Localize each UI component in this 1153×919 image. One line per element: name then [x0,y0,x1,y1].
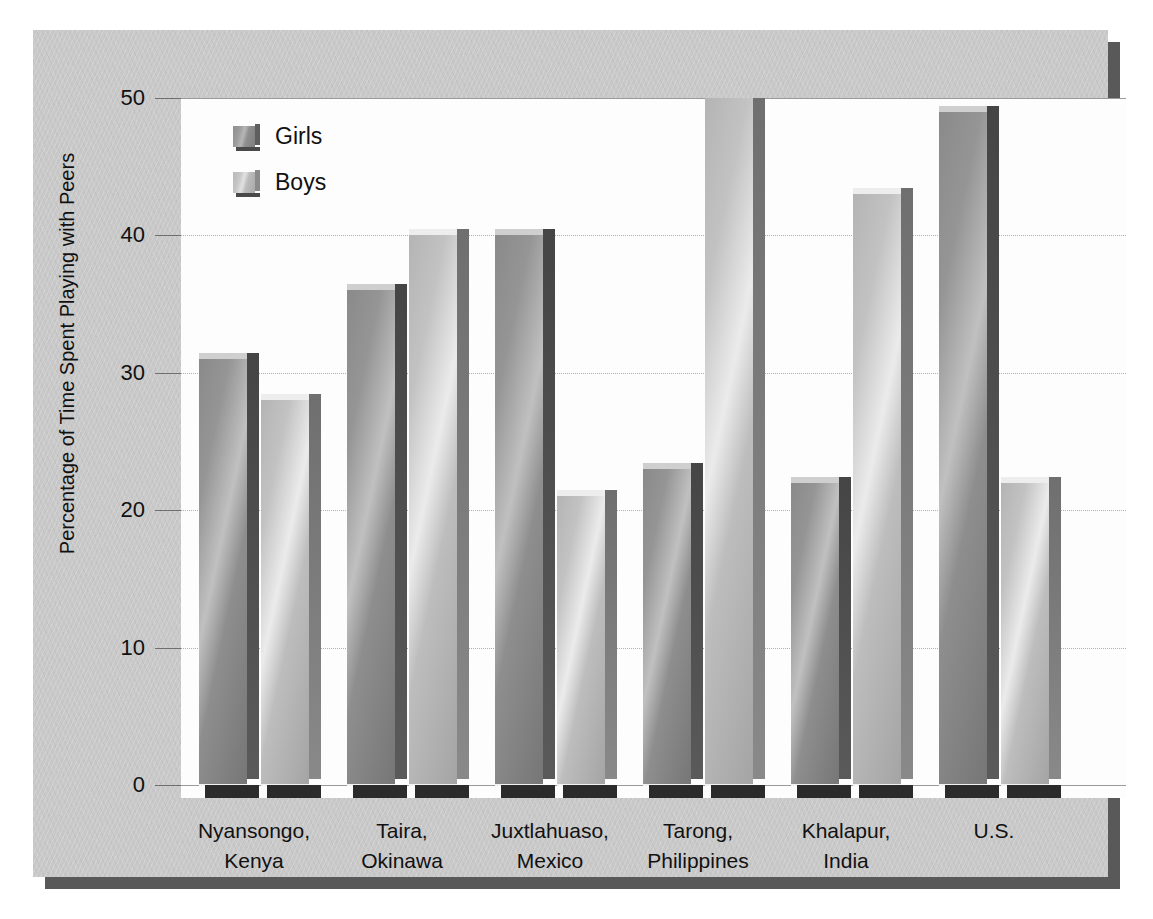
legend-label-boys: Boys [275,169,326,196]
bar-side-face [901,188,913,779]
bar-side-face [395,284,407,779]
bar-front-face [409,235,457,785]
x-axis-label-5: U.S. [904,816,1084,846]
bar-front-face [939,112,987,785]
y-tick-mark [155,373,181,374]
bar-side-face [987,106,999,779]
bar-girls-1 [347,290,407,785]
bar-girls-5 [939,112,999,785]
chart-figure: Percentage of Time Spent Playing with Pe… [0,0,1153,919]
bar-base-shadow [415,785,469,798]
bar-base-shadow [945,785,999,798]
bar-front-face [199,359,247,785]
bar-girls-2 [495,235,555,785]
bar-front-face [261,400,309,785]
y-tick-mark [155,98,181,99]
bar-boys-1 [409,235,469,785]
bar-side-face [691,463,703,779]
y-tick-label: 50 [89,87,145,109]
bar-side-face [247,353,259,779]
bar-base-shadow [797,785,851,798]
y-tick-label: 0 [89,774,145,796]
bar-front-face [1001,483,1049,785]
y-tick-label: 30 [89,362,145,384]
legend: Girls Boys [233,118,326,210]
bar-side-face [309,394,321,779]
bar-front-face [791,483,839,785]
legend-swatch-girls-icon [233,124,259,148]
bar-girls-3 [643,469,703,785]
y-axis-title: Percentage of Time Spent Playing with Pe… [56,34,79,674]
bar-front-face [853,194,901,785]
bar-base-shadow [563,785,617,798]
bar-boys-3 [705,98,765,785]
bar-base-shadow [859,785,913,798]
y-tick-mark [155,785,181,786]
bar-boys-4 [853,194,913,785]
y-tick-mark [155,235,181,236]
bar-base-shadow [205,785,259,798]
bar-base-shadow [353,785,407,798]
legend-swatch-boys-icon [233,170,259,194]
bar-front-face [495,235,543,785]
bar-base-shadow [711,785,765,798]
bar-side-face [543,229,555,779]
legend-label-girls: Girls [275,123,322,150]
legend-item-girls: Girls [233,118,326,154]
y-tick-mark [155,648,181,649]
y-tick-label: 40 [89,224,145,246]
bar-front-face [643,469,691,785]
legend-item-boys: Boys [233,164,326,200]
bar-front-face [347,290,395,785]
bar-base-shadow [1007,785,1061,798]
bar-side-face [605,490,617,779]
bar-front-face [705,98,753,785]
chart-panel: Percentage of Time Spent Playing with Pe… [33,30,1108,877]
y-tick-label: 20 [89,499,145,521]
bar-boys-0 [261,400,321,785]
bar-girls-4 [791,483,851,785]
bar-side-face [457,229,469,779]
bar-girls-0 [199,359,259,785]
bar-base-shadow [649,785,703,798]
bar-base-shadow [501,785,555,798]
y-tick-mark [155,510,181,511]
x-axis-labels: Nyansongo,KenyaTaira,OkinawaJuxtlahuaso,… [181,816,1141,886]
bar-side-face [1049,477,1061,779]
bar-boys-5 [1001,483,1061,785]
y-tick-label: 10 [89,637,145,659]
bar-front-face [557,496,605,785]
bar-boys-2 [557,496,617,785]
bar-base-shadow [267,785,321,798]
bar-side-face [753,98,765,779]
bar-side-face [839,477,851,779]
